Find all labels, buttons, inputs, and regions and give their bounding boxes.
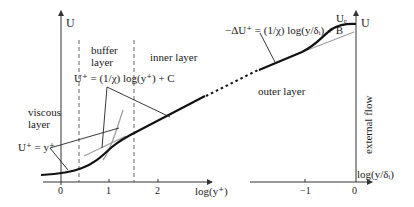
viscous-law-equation: U⁺ = y⁺ — [18, 142, 55, 153]
tick-label-2: 2 — [155, 186, 160, 196]
velocity-profile-overlap — [206, 70, 258, 96]
boundary-layer-diagram: U U Uₑ 0 1 2 log(y⁺) −1 0 log(y/δᵢ) visc… — [0, 0, 414, 207]
velocity-profile-inner — [41, 96, 205, 175]
defect-law-equation: −ΔU⁺ = (1/χ) log(y/δᵢ) + B — [225, 25, 343, 36]
buffer-layer-label-line2: layer — [91, 57, 113, 68]
inner-layer-label: inner layer — [150, 52, 197, 63]
outer-layer-label: outer layer — [258, 86, 305, 97]
leader-log-2 — [107, 87, 170, 117]
leader-log-1 — [102, 87, 107, 148]
buffer-layer-label-line1: buffer — [91, 45, 118, 56]
left-y-axis-label: U — [66, 17, 75, 29]
tick-label-right-0: 0 — [352, 186, 357, 196]
edge-velocity-label: Uₑ — [336, 13, 347, 24]
diagram-canvas — [0, 0, 414, 207]
tick-label-minus-1: −1 — [300, 186, 311, 196]
left-x-axis-label: log(y⁺) — [195, 186, 228, 197]
log-law-equation: U⁺ = (1/χ) log(y⁺) + C — [74, 73, 175, 84]
viscous-layer-label-line1: viscous — [28, 107, 61, 118]
viscous-layer-label-line2: layer — [28, 119, 50, 130]
right-x-axis-label: log(y/δᵢ) — [357, 169, 394, 180]
tick-label-0: 0 — [58, 186, 63, 196]
tick-label-1: 1 — [106, 186, 111, 196]
leader-viscous-1 — [50, 128, 119, 148]
leader-defect — [260, 33, 276, 64]
external-flow-label: external flow — [363, 96, 374, 154]
right-y-axis-label: U — [361, 17, 370, 29]
